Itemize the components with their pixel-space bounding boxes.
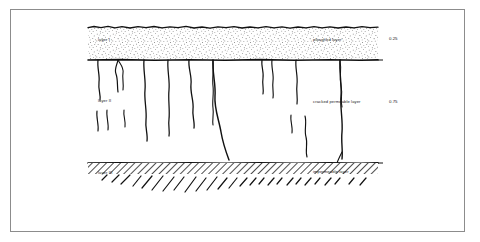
crack-4 — [144, 60, 147, 141]
ploughed-layer-stipple-fill — [88, 26, 378, 60]
crack-9 — [262, 60, 263, 94]
figure-canvas: layer I ploughed layer 0.25 layer II cra… — [0, 0, 480, 242]
crack-segment-3 — [124, 110, 125, 127]
crack-2 — [115, 60, 118, 92]
crack-8 — [213, 60, 214, 125]
crack-6 — [189, 60, 194, 128]
depth-label-075: 0.75 — [389, 100, 398, 104]
crack-11 — [296, 60, 297, 104]
crack-3 — [118, 60, 123, 90]
crack-segment-4 — [291, 115, 292, 133]
crack-10 — [272, 60, 273, 98]
crack-7-deep — [213, 60, 229, 160]
layer-3-impermeable-region — [88, 163, 378, 192]
layer-2-cracks-group — [97, 60, 342, 163]
crack-5 — [168, 60, 169, 136]
layer-2-description-label: cracked permeable layer — [313, 100, 361, 104]
crack-segment-1 — [97, 111, 98, 131]
layer-1-ploughed-region — [88, 26, 378, 60]
crack-segment-5 — [305, 116, 307, 157]
boundary-line-ploughed-base — [88, 60, 378, 61]
crack-1 — [98, 60, 100, 100]
layer-1-name-label: layer I — [98, 38, 110, 42]
impermeable-hatch-fading — [102, 175, 366, 192]
crack-segment-2 — [107, 110, 108, 130]
layer-2-name-label: layer II — [98, 99, 111, 103]
depth-label-025: 0.25 — [389, 37, 398, 41]
crack-segment-6 — [337, 152, 342, 163]
soil-profile-diagram — [0, 0, 480, 242]
depth-ticks — [378, 60, 383, 163]
layer-3-description-label: impermeable layer — [313, 170, 349, 174]
layer-3-name-label: layer III — [98, 171, 113, 175]
layer-1-description-label: ploughed layer — [313, 38, 342, 42]
